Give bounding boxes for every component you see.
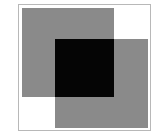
overlap-region <box>55 39 114 97</box>
